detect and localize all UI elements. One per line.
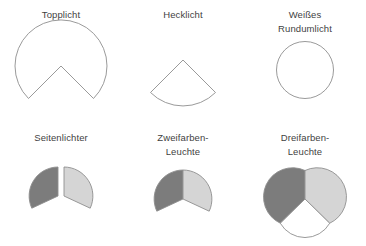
figure-zweifarben [122,169,244,231]
figure-dreifarben [244,169,366,231]
figure-topplicht [0,40,122,102]
rundumlicht-shape [255,40,355,102]
caption-rundumlicht: Weißes Rundumlicht [278,8,332,36]
topplicht-shape [11,40,111,102]
navigation-lights-diagram: Topplicht Hecklicht Weißes Rundumlicht [0,0,366,246]
figure-rundumlicht [244,40,366,102]
caption-dreifarben: Dreifarben- Leuchte [281,131,330,159]
seitenlicht-backbord [29,167,58,208]
dreifarben-shape [255,169,355,231]
diagram-cell-zweifarben: Zweifarben- Leuchte [122,123,244,246]
figure-seitenlichter [0,163,122,225]
diagram-cell-rundumlicht: Weißes Rundumlicht [244,0,366,123]
zweifarben-shape [133,169,233,231]
topplicht-outline [15,20,107,99]
rundumlicht-circle [277,42,334,99]
caption-hecklicht: Hecklicht [163,8,202,22]
seitenlichter-shape [11,163,111,225]
diagram-cell-hecklicht: Hecklicht [122,0,244,123]
diagram-cell-dreifarben: Dreifarben- Leuchte [244,123,366,246]
zweifarben-links [154,170,183,211]
diagram-cell-seitenlichter: Seitenlichter [0,123,122,246]
diagram-cell-topplicht: Topplicht [0,0,122,123]
seitenlicht-steuerbord [64,167,93,208]
figure-hecklicht [122,46,244,108]
diagram-grid: Topplicht Hecklicht Weißes Rundumlicht [0,0,366,246]
caption-zweifarben: Zweifarben- Leuchte [157,131,208,159]
hecklicht-outline [151,60,216,106]
zweifarben-rechts [183,170,212,211]
caption-seitenlichter: Seitenlichter [34,131,88,145]
hecklicht-shape [133,46,233,108]
